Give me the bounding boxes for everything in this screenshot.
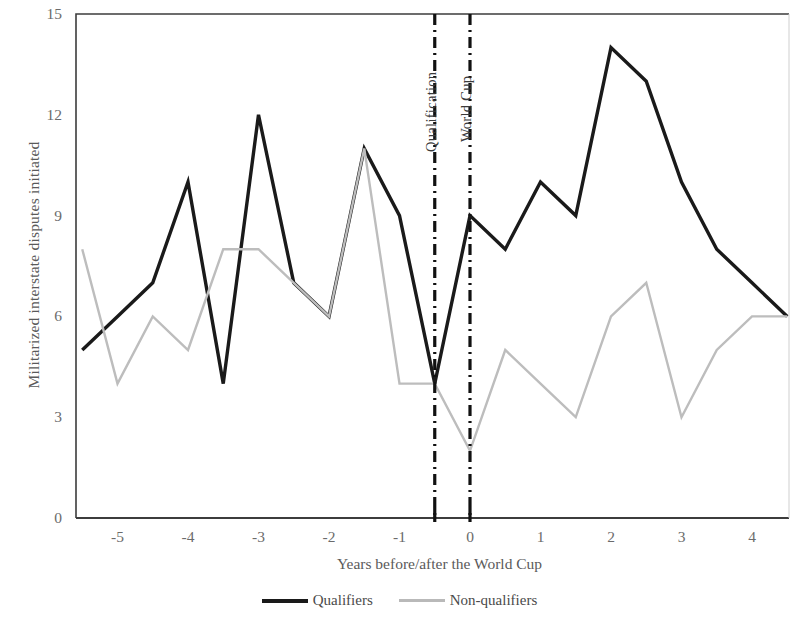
annotation-label-world-cup: World Cup <box>458 76 475 142</box>
legend-item-qualifiers: Qualifiers <box>262 592 373 609</box>
plot-area-container: Militarized interstate disputes initiate… <box>0 0 799 618</box>
legend-item-non-qualifiers: Non-qualifiers <box>399 592 537 609</box>
legend-label-non-qualifiers: Non-qualifiers <box>450 592 537 609</box>
legend-swatch-qualifiers <box>262 599 308 603</box>
chart-figure: Militarized interstate disputes initiate… <box>0 0 799 618</box>
legend-swatch-non-qualifiers <box>399 599 445 602</box>
legend-label-qualifiers: Qualifiers <box>313 592 373 609</box>
annotation-label-qualification: Qualification <box>423 72 440 152</box>
chart-plot-svg <box>0 0 799 618</box>
chart-legend: Qualifiers Non-qualifiers <box>0 592 799 609</box>
